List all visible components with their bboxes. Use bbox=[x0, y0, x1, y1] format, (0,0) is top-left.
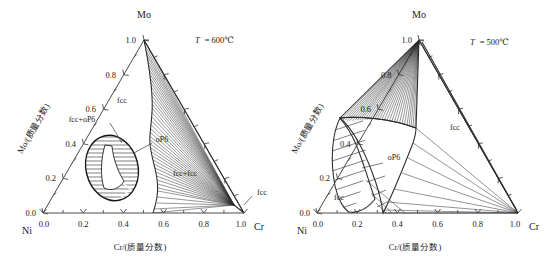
phase-label-fcc-left: fcc bbox=[117, 96, 127, 105]
tie-line-fan-mo-right bbox=[340, 40, 419, 128]
vertex-label-mo-right: Mo bbox=[412, 9, 426, 20]
y-ticklabel-4-left: 0.8 bbox=[105, 70, 116, 80]
x-ticklabel-5-left: 1.0 bbox=[236, 219, 247, 229]
y-ticklabel-5-right: 1.0 bbox=[401, 35, 412, 45]
inset-magnifier-left bbox=[79, 130, 148, 208]
y-ticklabel-5-left: 1.0 bbox=[125, 35, 136, 45]
phase-label-fcc-main-right: fcc bbox=[450, 123, 460, 132]
x-ticklabel-0-right: 0.0 bbox=[313, 219, 324, 229]
y-ticklabel-2-right: 0.4 bbox=[340, 139, 351, 149]
vertex-label-cr-right: Cr bbox=[529, 221, 540, 232]
y-ticklabel-1-left: 0.2 bbox=[45, 173, 56, 183]
phase-boundary-left bbox=[144, 40, 158, 213]
x-ticklabel-3-right: 0.6 bbox=[432, 219, 443, 229]
phase-label-fcc-lower-right: fcc bbox=[334, 193, 344, 202]
phase-label-op6-left: oP6 bbox=[156, 135, 168, 144]
y-axis-title-right: Mo/(质量分数) bbox=[289, 102, 326, 155]
x-ticklabel-2-left: 0.4 bbox=[118, 219, 129, 229]
mo-cr-inner-edge-right bbox=[422, 42, 516, 209]
y-ticklabel-0-left: 0.0 bbox=[25, 208, 36, 218]
ternary-triangle-outline-left bbox=[43, 40, 244, 213]
phase-label-fcc-right-left: fcc bbox=[257, 188, 267, 197]
y-ticklabel-4-right: 0.8 bbox=[381, 70, 392, 80]
x-ticklabel-1-left: 0.2 bbox=[78, 219, 89, 229]
vertex-label-mo-left: Mo bbox=[137, 9, 151, 20]
phase-diagram-left: Mo Ni Cr T = 600℃ 0.0 0.2 0.4 0.6 0.8 1.… bbox=[0, 0, 279, 259]
x-axis-ticks-left bbox=[40, 209, 248, 213]
phase-label-fcc-op6-left: fcc+oP6 bbox=[69, 115, 96, 124]
y-ticklabel-0-right: 0.0 bbox=[299, 208, 310, 218]
x-axis-title-left: Cr/(质量分数) bbox=[114, 242, 167, 252]
phase-label-fcc-fcc-left: fcc+fcc bbox=[173, 169, 197, 178]
x-axis-title-right: Cr/(质量分数) bbox=[389, 242, 442, 252]
x-ticklabel-0-left: 0.0 bbox=[39, 219, 50, 229]
leader-fcc-right-left bbox=[244, 196, 252, 205]
op6-region-right bbox=[340, 117, 416, 213]
leader-op6-left bbox=[134, 143, 152, 153]
vertex-label-cr-left: Cr bbox=[254, 221, 265, 232]
x-ticklabel-4-left: 0.8 bbox=[198, 219, 209, 229]
x-ticklabel-5-right: 1.0 bbox=[510, 219, 521, 229]
fcc-sliver-left bbox=[234, 205, 244, 213]
y-ticklabel-1-right: 0.2 bbox=[319, 173, 330, 183]
phase-diagram-right: Mo Ni Cr T = 500℃ 0.0 0.2 0.4 0.6 0.8 1.… bbox=[280, 0, 559, 259]
tie-lines-to-cr-right bbox=[383, 128, 518, 213]
y-ticklabel-2-left: 0.4 bbox=[65, 139, 76, 149]
y-axis-title-left: Mo/(质量分数) bbox=[15, 102, 52, 155]
vertex-label-ni-right: Ni bbox=[297, 225, 307, 236]
phase-label-op6-right: oP6 bbox=[388, 153, 400, 162]
y-ticklabel-3-right: 0.6 bbox=[360, 104, 371, 114]
y-ticklabel-3-left: 0.6 bbox=[85, 104, 96, 114]
hatch-fill-right bbox=[320, 112, 390, 235]
x-ticklabel-3-left: 0.6 bbox=[158, 219, 169, 229]
figure-root: Mo Ni Cr T = 600℃ 0.0 0.2 0.4 0.6 0.8 1.… bbox=[0, 0, 559, 259]
x-ticklabel-4-right: 0.8 bbox=[472, 219, 483, 229]
x-ticklabel-1-right: 0.2 bbox=[352, 219, 363, 229]
vertex-label-ni-left: Ni bbox=[22, 225, 32, 236]
ternary-triangle-outline-right bbox=[317, 40, 518, 213]
temperature-label-right: T = 500℃ bbox=[470, 37, 509, 47]
x-ticklabel-2-right: 0.4 bbox=[392, 219, 403, 229]
mo-cr-edge-left bbox=[144, 40, 244, 213]
temperature-label-left: T = 600℃ bbox=[195, 35, 234, 45]
